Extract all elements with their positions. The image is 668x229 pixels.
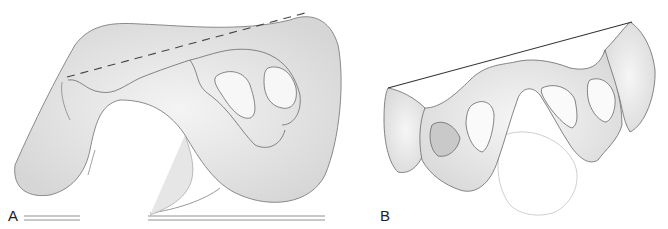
panel-label-b: B: [380, 207, 390, 224]
pelvis-lateral-drawing: [0, 0, 345, 229]
pelvis-oblique-drawing: [360, 0, 668, 229]
panel-a-illustration: [0, 0, 345, 229]
panel-label-a: A: [8, 207, 18, 224]
panel-b-illustration: [360, 0, 668, 229]
